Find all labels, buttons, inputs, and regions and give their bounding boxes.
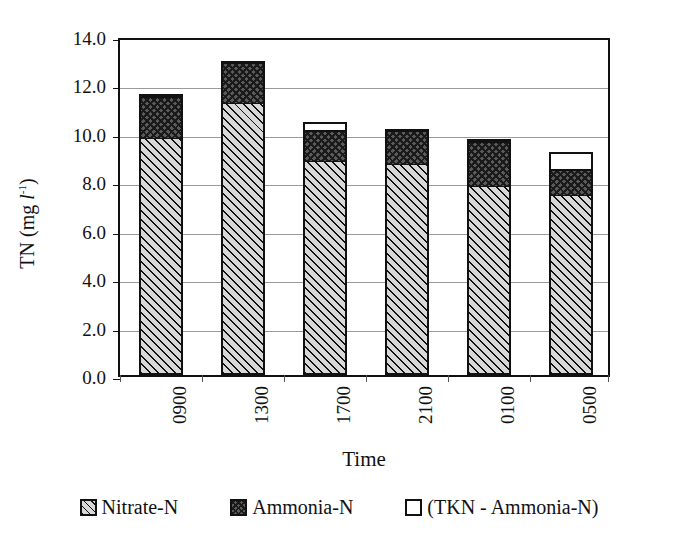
diagonal-hatch-swatch <box>80 499 97 516</box>
legend-item-label: Nitrate-N <box>102 496 179 519</box>
y-axis-tick-mark <box>113 331 120 332</box>
y-axis-tick-mark <box>113 234 120 235</box>
bar-segment-ammonia-n <box>469 142 509 187</box>
legend-item[interactable]: (TKN - Ammonia-N) <box>405 496 598 519</box>
y-axis-tick-mark <box>113 282 120 283</box>
x-axis-tick-mark <box>120 375 121 382</box>
bar-segment-ammonia-n <box>551 170 591 197</box>
bar-0500[interactable] <box>549 152 593 375</box>
y-axis-tick-label: 0.0 <box>44 368 106 387</box>
gridline <box>120 282 608 283</box>
y-axis-tick-mark <box>113 137 120 138</box>
legend-item-label: Ammonia-N <box>252 496 353 519</box>
y-axis-tick-mark <box>113 379 120 380</box>
x-axis-tick-mark <box>608 375 609 382</box>
bar-segment-tkn-ammonia-n <box>551 154 591 170</box>
bar-segment-nitrate-n <box>551 196 591 373</box>
y-axis-tick-mark <box>113 185 120 186</box>
gridline <box>120 234 608 235</box>
legend-item[interactable]: Nitrate-N <box>80 496 179 519</box>
bar-segment-ammonia-n <box>305 131 345 162</box>
y-axis-tick-label: 14.0 <box>44 29 106 48</box>
y-axis-tick-labels: 0.02.04.06.08.010.012.014.0 <box>40 0 106 544</box>
bar-segment-tkn-ammonia-n <box>305 124 345 131</box>
gridline <box>120 88 608 89</box>
x-axis-tick-mark <box>202 375 203 382</box>
y-axis-tick-mark <box>113 88 120 89</box>
bar-segment-nitrate-n <box>223 104 263 373</box>
empty-white-swatch <box>405 499 422 516</box>
gridline <box>120 137 608 138</box>
bar-0900[interactable] <box>139 94 183 375</box>
bar-segment-nitrate-n <box>469 187 509 373</box>
legend-item-label: (TKN - Ammonia-N) <box>427 496 598 519</box>
chart-legend: Nitrate-NAmmonia-N(TKN - Ammonia-N) <box>0 496 678 519</box>
crosshatch-dark-swatch <box>230 499 247 516</box>
y-axis-title: TN (mg l-1) <box>16 134 39 314</box>
plot-area <box>118 38 610 377</box>
tn-stacked-bar-chart: TN (mg l-1) 0.02.04.06.08.010.012.014.0 … <box>0 0 678 544</box>
y-axis-tick-label: 12.0 <box>44 77 106 96</box>
bar-0100[interactable] <box>467 139 511 375</box>
y-axis-tick-label: 6.0 <box>44 222 106 241</box>
bar-segment-nitrate-n <box>305 162 345 373</box>
x-axis-tick-mark <box>366 375 367 382</box>
y-axis-tick-label: 10.0 <box>44 125 106 144</box>
x-axis-tick-mark <box>530 375 531 382</box>
x-axis-title: Time <box>118 447 610 472</box>
gridline <box>120 331 608 332</box>
bar-1700[interactable] <box>303 122 347 375</box>
bar-segment-ammonia-n <box>223 63 263 104</box>
bar-segment-nitrate-n <box>141 139 181 373</box>
bar-segment-ammonia-n <box>387 131 427 165</box>
y-axis-tick-mark <box>113 40 120 41</box>
legend-item[interactable]: Ammonia-N <box>230 496 353 519</box>
bar-1300[interactable] <box>221 61 265 375</box>
bar-2100[interactable] <box>385 129 429 375</box>
x-axis-tick-mark <box>448 375 449 382</box>
y-axis-tick-label: 4.0 <box>44 271 106 290</box>
y-axis-tick-label: 8.0 <box>44 174 106 193</box>
gridline <box>120 185 608 186</box>
bar-segment-nitrate-n <box>387 165 427 373</box>
y-axis-tick-label: 2.0 <box>44 319 106 338</box>
bar-segment-ammonia-n <box>141 97 181 139</box>
x-axis-tick-mark <box>284 375 285 382</box>
